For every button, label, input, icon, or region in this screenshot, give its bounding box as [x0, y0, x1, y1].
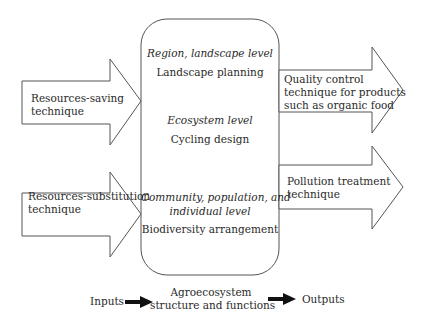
output-label-pollution-line1: Pollution treatment — [287, 175, 391, 188]
design-landscape-planning: Landscape planning — [141, 66, 279, 79]
input-label-substitution-line1: Resources-substitution — [28, 190, 150, 203]
input-label-substitution-line2: technique — [28, 203, 81, 216]
input-label-saving-line1: Resources-saving — [31, 92, 124, 105]
legend-agroecosystem-line1: Agroecosystem — [150, 286, 272, 299]
legend-outputs: Outputs — [302, 293, 345, 306]
output-label-quality-line2: technique for products — [284, 86, 406, 99]
design-cycling: Cycling design — [141, 133, 279, 146]
level-ecosystem: Ecosystem level — [141, 114, 279, 127]
legend-agroecosystem-line2: structure and functions — [150, 299, 272, 312]
output-label-pollution-line2: technique — [287, 188, 340, 201]
input-label-saving-line2: technique — [31, 105, 84, 118]
level-region-landscape: Region, landscape level — [141, 47, 279, 60]
output-label-quality-line1: Quality control — [284, 73, 364, 86]
design-biodiversity-arrangement: Biodiversity arrangement — [141, 223, 279, 236]
legend-inputs: Inputs — [90, 295, 124, 308]
level-community-line2: individual level — [141, 205, 279, 218]
legend-input-arrow-icon — [125, 296, 153, 308]
level-community-line1: Community, population, and — [141, 191, 279, 204]
output-label-quality-line3: such as organic food — [284, 99, 394, 112]
